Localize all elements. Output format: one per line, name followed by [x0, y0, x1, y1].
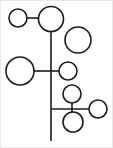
- diagram-svg: [1, 1, 113, 148]
- node-circle-n8[interactable]: [89, 100, 107, 118]
- node-circle-n2[interactable]: [39, 7, 64, 32]
- node-circle-n4[interactable]: [6, 57, 34, 85]
- node-circle-n6[interactable]: [63, 85, 81, 103]
- node-circle-n1[interactable]: [9, 9, 27, 27]
- node-circle-n5[interactable]: [59, 62, 77, 80]
- nodes-layer: [6, 7, 107, 133]
- node-circle-n3[interactable]: [65, 27, 91, 53]
- node-circle-n7[interactable]: [63, 112, 83, 132]
- diagram-canvas: Node and branch diagram Black outlined c…: [0, 0, 113, 148]
